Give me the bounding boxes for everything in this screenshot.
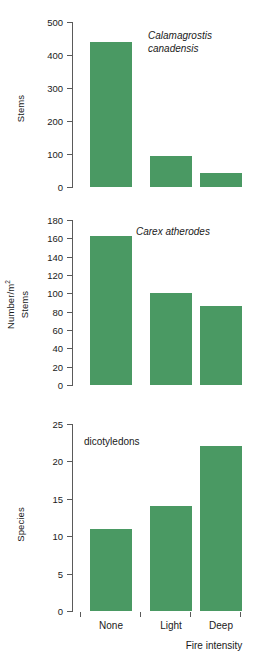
bar-carex-atherodes-deep (200, 306, 242, 385)
plot-area-bottom: 0510152025 NoneLightDeep (72, 424, 248, 612)
y-tick-label-middle-20: 20 (52, 361, 63, 372)
bar-dicotyledons-light (150, 506, 192, 611)
bar-calamagrostis-canadensis-deep (200, 173, 242, 187)
y-tick-middle-40: 40 (67, 348, 72, 349)
y-tick-label-middle-160: 160 (47, 233, 63, 244)
y-tick-label-top-400: 400 (47, 50, 63, 61)
y-tick-label-middle-100: 100 (47, 288, 63, 299)
y-tick-middle-160: 160 (67, 238, 72, 239)
y-tick-bottom-20: 20 (67, 461, 72, 462)
x-axis-title-fire-intensity: Fire intensity (0, 640, 256, 651)
y-axis-label-stems-top: Stems (15, 94, 26, 121)
y-axis-label-species: Species (15, 507, 26, 542)
y-tick-label-middle-40: 40 (52, 343, 63, 354)
y-axis-line-bottom (72, 424, 73, 612)
y-tick-label-middle-60: 60 (52, 325, 63, 336)
y-axis-line-top (72, 22, 73, 188)
y-tick-label-middle-80: 80 (52, 306, 63, 317)
y-tick-label-bottom-0: 0 (58, 606, 63, 617)
y-tick-label-top-500: 500 (47, 17, 63, 28)
y-tick-middle-80: 80 (67, 312, 72, 313)
x-tick-label-none: None (99, 620, 123, 631)
plot-area-middle: 020406080100120140160180 (72, 220, 248, 386)
x-tick-label-light: Light (160, 620, 182, 631)
bar-carex-atherodes-light (150, 293, 192, 385)
y-tick-label-middle-120: 120 (47, 270, 63, 281)
panel-calamagrostis-canadensis: Stems Calamagrostis canadensis 010020030… (0, 8, 256, 206)
y-tick-label-top-0: 0 (58, 182, 63, 193)
y-tick-bottom-0: 0 (67, 611, 72, 612)
y-tick-top-500: 500 (67, 22, 72, 23)
y-tick-bottom-25: 25 (67, 424, 72, 425)
x-axis-boundary-tick-0 (80, 612, 81, 617)
y-axis-label-number-text: Number/m (5, 283, 16, 328)
y-tick-top-100: 100 (67, 154, 72, 155)
figure-three-panel-bar-charts: Stems Calamagrostis canadensis 010020030… (0, 0, 256, 662)
x-axis-boundary-tick-2 (190, 612, 191, 617)
bar-dicotyledons-deep (200, 446, 242, 611)
y-tick-top-400: 400 (67, 55, 72, 56)
y-axis-label-superscript: 2 (4, 280, 11, 284)
y-tick-middle-140: 140 (67, 257, 72, 258)
bar-dicotyledons-none (90, 529, 132, 611)
y-tick-middle-100: 100 (67, 293, 72, 294)
y-tick-label-top-300: 300 (47, 83, 63, 94)
y-tick-label-bottom-15: 15 (52, 493, 63, 504)
y-tick-label-bottom-20: 20 (52, 456, 63, 467)
y-tick-label-top-100: 100 (47, 149, 63, 160)
y-tick-label-bottom-10: 10 (52, 531, 63, 542)
y-tick-middle-120: 120 (67, 275, 72, 276)
y-tick-middle-0: 0 (67, 385, 72, 386)
y-tick-label-bottom-5: 5 (58, 568, 63, 579)
plot-area-top: 0100200300400500 (72, 22, 248, 188)
bar-calamagrostis-canadensis-light (150, 156, 192, 187)
y-tick-top-0: 0 (67, 187, 72, 188)
y-tick-middle-60: 60 (67, 330, 72, 331)
y-tick-top-300: 300 (67, 88, 72, 89)
y-axis-label-stems-middle: Stems (19, 290, 30, 317)
x-axis-boundary-tick-1 (140, 612, 141, 617)
y-tick-bottom-5: 5 (67, 574, 72, 575)
panel-carex-atherodes: Number/m2 Stems Carex atherodes 02040608… (0, 212, 256, 408)
x-axis-boundary-tick-3 (240, 612, 241, 617)
y-tick-bottom-10: 10 (67, 536, 72, 537)
y-tick-bottom-15: 15 (67, 499, 72, 500)
bar-calamagrostis-canadensis-none (90, 42, 132, 187)
y-axis-line-middle (72, 220, 73, 386)
y-tick-label-bottom-25: 25 (52, 419, 63, 430)
y-tick-label-top-200: 200 (47, 116, 63, 127)
bar-carex-atherodes-none (90, 236, 132, 385)
panel-dicotyledons: Species dicotyledons 0510152025 NoneLigh… (0, 412, 256, 660)
y-tick-top-200: 200 (67, 121, 72, 122)
y-tick-middle-180: 180 (67, 220, 72, 221)
x-tick-label-deep: Deep (209, 620, 233, 631)
y-tick-label-middle-180: 180 (47, 215, 63, 226)
y-tick-label-middle-0: 0 (58, 380, 63, 391)
y-tick-label-middle-140: 140 (47, 251, 63, 262)
y-tick-middle-20: 20 (67, 367, 72, 368)
y-axis-label-number-per-m2: Number/m2 (5, 280, 16, 329)
